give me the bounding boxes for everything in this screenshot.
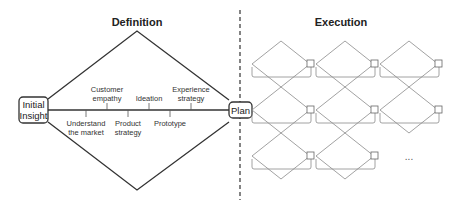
milestone-square bbox=[371, 60, 378, 67]
milestone-square bbox=[371, 152, 378, 159]
iteration-diamond bbox=[316, 87, 378, 133]
feedback-loop bbox=[380, 67, 439, 77]
initial-insight-line1: Initial bbox=[22, 99, 44, 110]
iteration-diamond bbox=[316, 133, 378, 179]
milestone-square bbox=[371, 106, 378, 113]
execution-iterations bbox=[252, 41, 442, 179]
label-prototype: Prototype bbox=[154, 119, 186, 128]
iteration-diamond bbox=[252, 133, 314, 179]
label-customer-line2: empathy bbox=[93, 94, 122, 103]
iteration-diamond bbox=[252, 41, 314, 87]
feedback-loop bbox=[252, 67, 311, 77]
label-understand-line1: Understand bbox=[67, 119, 106, 128]
feedback-loop bbox=[252, 159, 311, 169]
iteration-diamond bbox=[380, 41, 442, 87]
milestone-square bbox=[307, 152, 314, 159]
label-experience-line1: Experience bbox=[172, 85, 210, 94]
feedback-loop bbox=[252, 113, 311, 123]
feedback-loop bbox=[316, 113, 375, 123]
milestone-square bbox=[435, 106, 442, 113]
iteration-diamond bbox=[316, 41, 378, 87]
plan-label: Plan bbox=[231, 105, 250, 116]
milestone-square bbox=[307, 60, 314, 67]
feedback-loop bbox=[316, 159, 375, 169]
iteration-diamond bbox=[252, 87, 314, 133]
feedback-loop bbox=[316, 67, 375, 77]
execution-title: Execution bbox=[315, 16, 368, 28]
milestone-square bbox=[435, 60, 442, 67]
label-customer-line1: Customer bbox=[91, 85, 124, 94]
label-experience-line2: strategy bbox=[178, 94, 205, 103]
label-understand-line2: the market bbox=[68, 128, 104, 137]
label-ideation: Ideation bbox=[136, 94, 163, 103]
iteration-diamond bbox=[380, 87, 442, 133]
feedback-loop bbox=[380, 113, 439, 123]
label-product-line2: strategy bbox=[115, 128, 142, 137]
more-iterations-ellipsis: ... bbox=[405, 151, 413, 162]
milestone-square bbox=[307, 106, 314, 113]
definition-title: Definition bbox=[112, 16, 163, 28]
process-diagram: Definition Customer empathy Ideation Exp… bbox=[0, 0, 459, 208]
initial-insight-line2: Insight bbox=[20, 110, 48, 121]
label-product-line1: Product bbox=[115, 119, 142, 128]
